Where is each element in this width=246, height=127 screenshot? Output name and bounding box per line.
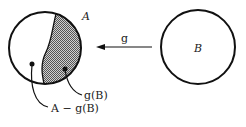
set-a-label: A	[81, 10, 90, 23]
image-label-gb: g(B)	[84, 89, 108, 102]
set-b-label: B	[193, 42, 202, 55]
difference-label: A − g(B)	[50, 102, 99, 115]
map-label-g: g	[121, 32, 128, 45]
diagram-canvas: A B g g(B) A − g(B)	[0, 0, 246, 127]
